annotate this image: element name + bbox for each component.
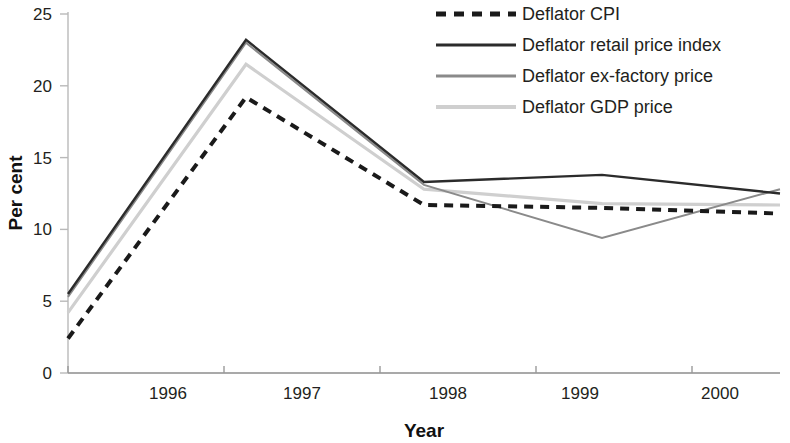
- x-axis-title: Year: [404, 420, 445, 441]
- chart-figure: 25 20 15 10 5 0 1996 1997 1998 1999 2000…: [0, 0, 790, 443]
- legend-label-0: Deflator CPI: [522, 4, 620, 24]
- y-tick-label: 0: [43, 364, 52, 383]
- y-tick-label: 20: [33, 77, 52, 96]
- x-tick-label: 1997: [283, 384, 321, 403]
- line-chart: 25 20 15 10 5 0 1996 1997 1998 1999 2000…: [0, 0, 790, 443]
- y-tick-label: 5: [43, 292, 52, 311]
- x-tick-label: 1999: [561, 384, 599, 403]
- y-tick-label: 25: [33, 5, 52, 24]
- x-tick-marks: [68, 366, 692, 373]
- legend-swatches: [436, 14, 516, 107]
- legend-label-2: Deflator ex-factory price: [522, 66, 713, 86]
- x-tick-label: 1998: [429, 384, 467, 403]
- y-tick-marks: [60, 14, 68, 373]
- x-tick-label: 1996: [149, 384, 187, 403]
- y-tick-label: 10: [33, 220, 52, 239]
- chart-legend: Deflator CPI Deflator retail price index…: [436, 4, 721, 117]
- x-tick-labels: 1996 1997 1998 1999 2000: [149, 384, 739, 403]
- legend-label-1: Deflator retail price index: [522, 35, 721, 55]
- x-tick-label: 2000: [701, 384, 739, 403]
- series-line: [68, 64, 780, 312]
- legend-label-3: Deflator GDP price: [522, 97, 673, 117]
- y-tick-labels: 25 20 15 10 5 0: [33, 5, 52, 383]
- y-axis-title: Per cent: [5, 155, 26, 231]
- y-tick-label: 15: [33, 149, 52, 168]
